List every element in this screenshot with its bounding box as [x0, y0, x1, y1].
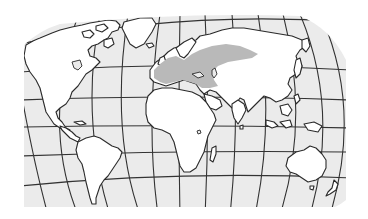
tasmania: [310, 186, 314, 190]
world-map: [0, 0, 368, 219]
lake-victoria: [197, 130, 201, 134]
world-map-svg: [0, 0, 368, 219]
sri-lanka: [240, 125, 243, 129]
